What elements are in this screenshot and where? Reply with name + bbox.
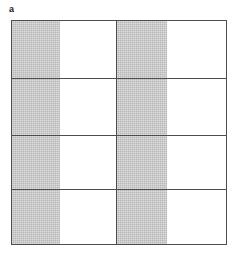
blank-band [60,79,116,135]
blank-band [167,190,226,244]
grid-cell [117,190,226,244]
shaded-band [12,21,60,78]
grid-cell [12,79,117,135]
shaded-band [12,79,60,135]
figure-panel: a [0,0,238,263]
grid-cell [12,21,117,78]
grid-cell [12,190,117,244]
blank-band [60,190,116,244]
grid-cell [117,21,226,78]
shaded-band [12,136,60,190]
grid-cell [117,79,226,135]
shaded-band [117,136,167,190]
grid-inner [12,21,226,244]
grid-row [12,21,226,79]
blank-band [167,136,226,190]
blank-band [60,136,116,190]
grid-row [12,79,226,136]
shaded-band [117,79,167,135]
panel-label-a: a [9,4,14,14]
shaded-band [117,21,167,78]
grid-cell [12,136,117,190]
grid-cell [117,136,226,190]
grid-row [12,190,226,244]
shaded-band [12,190,60,244]
shaded-band [117,190,167,244]
blank-band [167,21,226,78]
grid-row [12,136,226,191]
grid-frame [11,20,227,245]
blank-band [167,79,226,135]
blank-band [60,21,116,78]
